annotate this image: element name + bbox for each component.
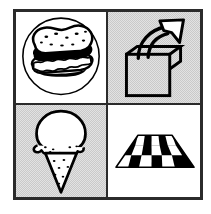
ice-cream-cone-icon bbox=[16, 105, 106, 198]
sandwich-icon bbox=[16, 12, 106, 103]
panel-checkerboard-floor[interactable]: Checkerboard floor bbox=[108, 105, 200, 198]
box-arrow-out-icon bbox=[108, 12, 200, 103]
figure-canvas: Sandwich in circle bbox=[0, 0, 211, 214]
checkerboard-floor-icon bbox=[108, 105, 200, 198]
panel-grid: Sandwich in circle bbox=[13, 9, 203, 200]
panel-ice-cream-cone[interactable]: Ice cream cone bbox=[16, 105, 108, 198]
panel-box-arrow-out[interactable]: Arrow out of box bbox=[108, 12, 200, 105]
panel-sandwich[interactable]: Sandwich in circle bbox=[16, 12, 108, 105]
